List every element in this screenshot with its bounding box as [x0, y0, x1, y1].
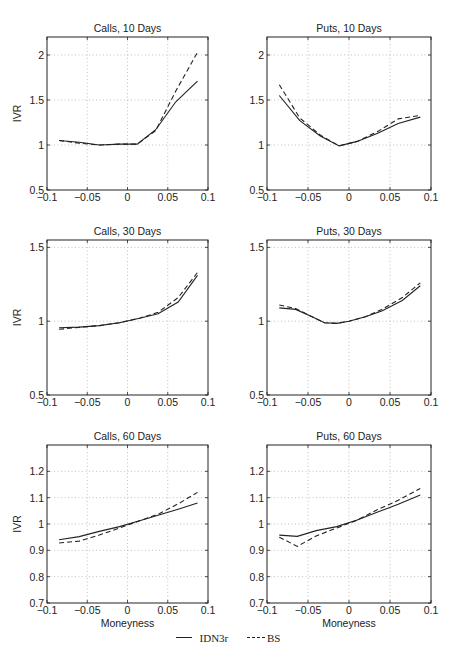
legend-label: IDN3r	[200, 632, 229, 644]
grid	[267, 37, 431, 190]
panel-title: Calls, 60 Days	[94, 430, 162, 442]
y-tick-label: 1.2	[29, 465, 44, 477]
x-axis-ticks: −0.1−0.0500.050.1	[37, 240, 216, 408]
y-tick-label: 0.9	[29, 544, 44, 556]
grid	[47, 240, 208, 395]
x-axis-ticks: −0.1−0.0500.050.1	[257, 240, 439, 408]
y-axis-ticks: 0.70.80.911.11.2	[249, 465, 431, 609]
panel-puts-60-days: −0.1−0.0500.050.10.70.80.911.11.2Puts, 6…	[249, 430, 438, 629]
y-tick-label: 0.5	[249, 389, 264, 401]
x-tick-label: 0.1	[201, 604, 216, 616]
x-tick-label: 0	[346, 191, 352, 203]
x-axis-ticks: −0.1−0.0500.050.1	[257, 445, 439, 616]
panel-calls-10-days: −0.1−0.0500.050.10.511.52Calls, 10 DaysI…	[11, 22, 215, 203]
x-tick-label: 0.05	[380, 604, 401, 616]
panel-title: Puts, 60 Days	[316, 430, 381, 442]
x-tick-label: 0.1	[424, 604, 439, 616]
panel-puts-30-days: −0.1−0.0500.050.10.511.5Puts, 30 Days	[249, 225, 438, 408]
x-tick-label: 0.05	[380, 191, 401, 203]
series-bs	[279, 283, 420, 324]
y-tick-label: 1	[258, 315, 264, 327]
legend-item-idn3r: IDN3r	[176, 632, 229, 644]
x-tick-label: 0	[125, 396, 131, 408]
series-idn3r	[59, 81, 197, 145]
y-axis-ticks: 0.511.5	[29, 241, 208, 401]
x-tick-label: 0.05	[158, 396, 179, 408]
series-idn3r	[59, 275, 197, 327]
legend-item-bs: BS	[247, 632, 280, 644]
figure-canvas: −0.1−0.0500.050.10.511.52Calls, 10 DaysI…	[0, 0, 456, 660]
series-bs	[279, 488, 420, 546]
grid	[47, 37, 208, 190]
y-tick-label: 1.5	[29, 94, 44, 106]
panel-title: Calls, 10 Days	[94, 22, 162, 34]
x-tick-label: −0.05	[295, 396, 322, 408]
panel-calls-30-days: −0.1−0.0500.050.10.511.5Calls, 30 DaysIV…	[11, 225, 215, 408]
y-tick-label: 1.1	[29, 492, 44, 504]
y-tick-label: 0.7	[29, 597, 44, 609]
series-idn3r	[279, 96, 420, 146]
series-bs	[279, 85, 420, 146]
x-tick-label: 0	[346, 604, 352, 616]
y-tick-label: 1	[258, 518, 264, 530]
y-tick-label: 1	[38, 518, 44, 530]
x-tick-label: 0	[125, 604, 131, 616]
y-tick-label: 0.5	[249, 184, 264, 196]
series-bs	[59, 52, 197, 145]
y-tick-label: 1.5	[249, 94, 264, 106]
legend-label: BS	[267, 632, 280, 644]
x-tick-label: 0	[125, 191, 131, 203]
series-idn3r	[279, 286, 420, 324]
grid	[267, 445, 431, 603]
x-tick-label: 0.1	[201, 396, 216, 408]
x-tick-label: 0.1	[424, 191, 439, 203]
x-tick-label: 0.05	[158, 604, 179, 616]
y-axis-ticks: 0.70.80.911.11.2	[29, 465, 208, 609]
grid	[267, 240, 431, 395]
panel-title: Puts, 30 Days	[316, 225, 381, 237]
panel-puts-10-days: −0.1−0.0500.050.10.511.52Puts, 10 Days	[249, 22, 438, 203]
dashed-line-icon	[247, 637, 265, 638]
x-tick-label: −0.05	[74, 191, 101, 203]
series-bs	[59, 492, 197, 543]
y-tick-label: 1	[38, 315, 44, 327]
panel-title: Calls, 30 Days	[94, 225, 162, 237]
y-tick-label: 2	[258, 49, 264, 61]
y-tick-label: 1.5	[29, 241, 44, 253]
panel-title: Puts, 10 Days	[316, 22, 381, 34]
x-tick-label: −0.05	[295, 191, 322, 203]
y-axis-ticks: 0.511.52	[29, 49, 208, 196]
x-tick-label: 0.1	[424, 396, 439, 408]
x-tick-label: −0.05	[74, 604, 101, 616]
y-tick-label: 2	[38, 49, 44, 61]
y-tick-label: 0.8	[249, 571, 264, 583]
legend: IDN3r BS	[0, 628, 456, 644]
y-axis-label: IVR	[11, 104, 23, 122]
series-idn3r	[59, 503, 197, 540]
y-tick-label: 1.2	[249, 465, 264, 477]
x-tick-label: −0.05	[295, 604, 322, 616]
x-tick-label: 0.1	[201, 191, 216, 203]
panel-calls-60-days: −0.1−0.0500.050.10.70.80.911.11.2Calls, …	[11, 430, 215, 629]
y-tick-label: 0.5	[29, 389, 44, 401]
solid-line-icon	[176, 637, 192, 638]
y-tick-label: 1	[38, 139, 44, 151]
x-axis-ticks: −0.1−0.0500.050.1	[37, 445, 216, 616]
x-axis-ticks: −0.1−0.0500.050.1	[37, 37, 216, 203]
y-tick-label: 0.9	[249, 544, 264, 556]
y-tick-label: 1.1	[249, 492, 264, 504]
x-tick-label: −0.05	[74, 396, 101, 408]
y-axis-label: IVR	[11, 308, 23, 326]
y-tick-label: 0.8	[29, 571, 44, 583]
series-idn3r	[279, 495, 420, 536]
y-axis-ticks: 0.511.52	[249, 49, 431, 196]
y-tick-label: 1.5	[249, 241, 264, 253]
x-tick-label: 0.05	[380, 396, 401, 408]
x-tick-label: 0	[346, 396, 352, 408]
y-axis-label: IVR	[11, 515, 23, 533]
y-tick-label: 1	[258, 139, 264, 151]
y-tick-label: 0.7	[249, 597, 264, 609]
y-tick-label: 0.5	[29, 184, 44, 196]
x-tick-label: 0.05	[158, 191, 179, 203]
